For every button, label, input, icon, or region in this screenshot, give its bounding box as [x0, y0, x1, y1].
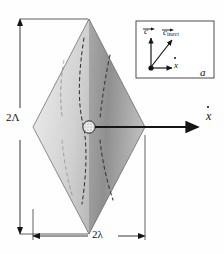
horizontal-dimension-label: 2λ	[92, 229, 103, 240]
inset-vector-c-label: c	[144, 27, 148, 36]
inset-vector-c-label-text: c	[144, 26, 148, 36]
inset-x-dot-label-text: x	[174, 60, 178, 70]
figure-container: 2Λ 2λ x c c inert	[0, 0, 224, 254]
x-dot-axis-label-glyph: x	[206, 110, 211, 122]
inset-x-dot-label-glyph: x	[174, 61, 178, 70]
dot-accent-icon	[174, 57, 176, 59]
panel-label-a: a	[200, 67, 206, 78]
dot-accent-icon	[207, 106, 209, 108]
inset-vector-c-inert-label: c inert	[163, 28, 179, 37]
inset-vector-c-inert-subscript: inert	[167, 31, 179, 37]
x-dot-axis-label: x	[206, 110, 211, 122]
x-dot-axis-label-text: x	[206, 109, 211, 123]
inset-vector-c-inert-label-glyph: c	[163, 28, 167, 37]
center-node-marker	[83, 121, 95, 133]
inset-vector-c-label-glyph: c	[144, 27, 148, 36]
inset-vector-x-dot-label: x	[174, 61, 178, 70]
inset-vector-c-inert-label-text: c	[163, 27, 167, 37]
figure-canvas	[0, 0, 224, 254]
vertical-dimension-label: 2Λ	[6, 112, 19, 123]
